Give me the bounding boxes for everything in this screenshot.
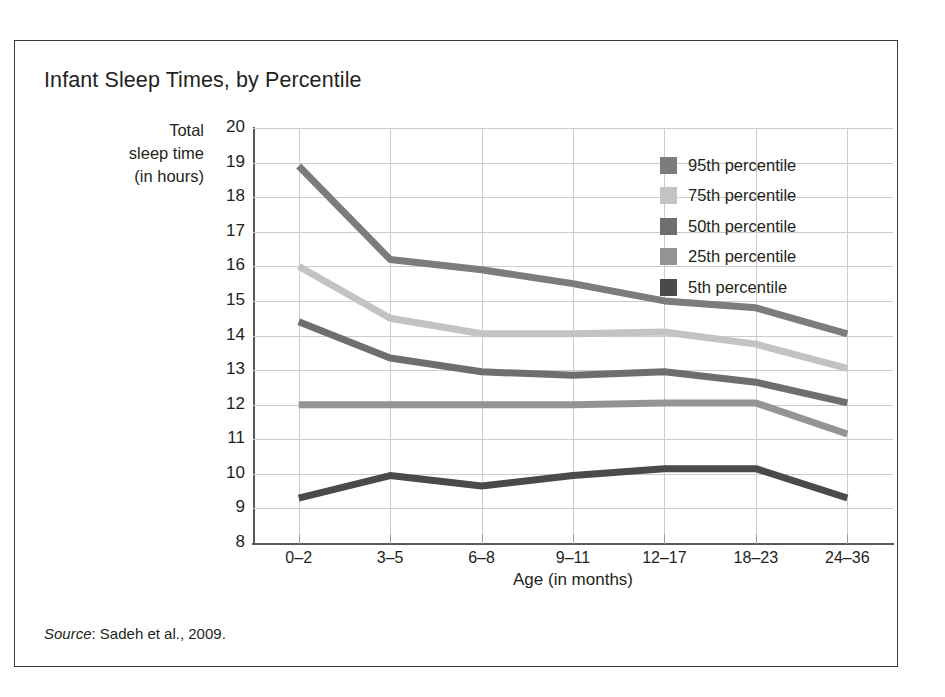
y-tick-label: 10 (199, 463, 245, 483)
x-tick-mark (390, 534, 391, 544)
y-tick-label: 11 (199, 428, 245, 448)
x-tick-mark (847, 534, 848, 544)
x-tick-label: 24–36 (799, 549, 895, 567)
x-tick-mark (299, 534, 300, 544)
y-axis-title-line-3: (in hours) (96, 165, 204, 188)
y-tick-label: 8 (199, 532, 245, 552)
y-axis-title-line-2: sleep time (96, 142, 204, 165)
y-tick-label: 15 (199, 290, 245, 310)
x-tick-mark (664, 534, 665, 544)
x-tick-mark (756, 534, 757, 544)
legend-item[interactable]: 5th percentile (660, 272, 875, 303)
y-tick-label: 17 (199, 221, 245, 241)
x-tick-mark (573, 534, 574, 544)
series-line (299, 469, 848, 498)
x-axis-title: Age (in months) (253, 570, 893, 590)
y-tick-label: 16 (199, 255, 245, 275)
y-tick-label: 9 (199, 497, 245, 517)
chart-legend: 95th percentile75th percentile50th perce… (660, 150, 875, 303)
y-tick-label: 14 (199, 325, 245, 345)
legend-label: 25th percentile (688, 247, 796, 266)
legend-swatch-icon (660, 218, 677, 235)
legend-item[interactable]: 75th percentile (660, 181, 875, 212)
legend-label: 75th percentile (688, 186, 796, 205)
x-tick-label: 6–8 (434, 549, 530, 567)
y-tick-label: 20 (199, 117, 245, 137)
y-axis-title: Total sleep time (in hours) (96, 119, 204, 188)
chart-title: Infant Sleep Times, by Percentile (44, 68, 362, 93)
legend-item[interactable]: 25th percentile (660, 242, 875, 273)
x-tick-label: 18–23 (708, 549, 804, 567)
y-tick-label: 19 (199, 152, 245, 172)
x-tick-label: 0–2 (251, 549, 347, 567)
x-tick-label: 9–11 (525, 549, 621, 567)
series-line (299, 403, 848, 434)
legend-item[interactable]: 95th percentile (660, 150, 875, 181)
x-tick-label: 3–5 (342, 549, 438, 567)
x-tick-label: 12–17 (616, 549, 712, 567)
legend-swatch-icon (660, 248, 677, 265)
legend-label: 95th percentile (688, 156, 796, 175)
y-tick-label: 13 (199, 359, 245, 379)
legend-label: 50th percentile (688, 217, 796, 236)
legend-swatch-icon (660, 279, 677, 296)
legend-item[interactable]: 50th percentile (660, 211, 875, 242)
legend-swatch-icon (660, 187, 677, 204)
legend-swatch-icon (660, 157, 677, 174)
y-tick-label: 18 (199, 186, 245, 206)
legend-label: 5th percentile (688, 278, 787, 297)
y-tick-label: 12 (199, 394, 245, 414)
source-note-label: Source (44, 625, 92, 642)
y-axis-title-line-1: Total (96, 119, 204, 142)
figure-root: Infant Sleep Times, by Percentile Total … (0, 0, 945, 697)
x-tick-mark (482, 534, 483, 544)
source-note: Source: Sadeh et al., 2009. (44, 625, 226, 642)
source-note-text: : Sadeh et al., 2009. (92, 625, 226, 642)
